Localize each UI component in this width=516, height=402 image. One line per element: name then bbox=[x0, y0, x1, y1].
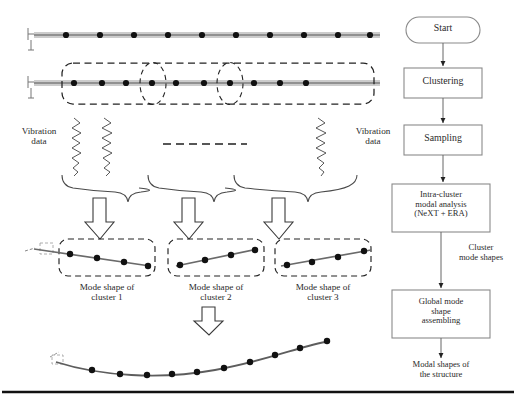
flow-label-sampling[interactable]: Sampling bbox=[404, 133, 482, 144]
block-arrow-down-2 bbox=[174, 198, 203, 239]
mode-shape-cluster-3 bbox=[275, 239, 371, 276]
block-arrow-down-1 bbox=[85, 198, 114, 239]
block-arrow-assemble bbox=[194, 307, 223, 335]
flow-label-intra-cluster[interactable]: Intra-cluster modal analysis (NeXT + ERA… bbox=[392, 190, 490, 219]
support-icon-top bbox=[28, 28, 34, 50]
beam-clustered-group bbox=[28, 63, 380, 105]
vibration-data-label-right: Vibration data bbox=[340, 126, 406, 147]
flow-label-global-assembly[interactable]: Global mode shape assembling bbox=[392, 297, 490, 326]
cluster1-shape-line bbox=[34, 249, 150, 266]
global-dots bbox=[89, 338, 330, 378]
waveform-signal-3 bbox=[316, 118, 326, 176]
flow-label-clustering[interactable]: Clustering bbox=[404, 76, 482, 87]
cluster3-dashed-box bbox=[275, 239, 371, 276]
cluster1-caption: Mode shape of cluster 1 bbox=[52, 282, 162, 303]
anchor-dash-1 bbox=[25, 248, 35, 251]
cluster2-shape-line bbox=[176, 249, 258, 266]
global-mode-shape bbox=[50, 338, 330, 378]
block-arrow-group bbox=[85, 198, 293, 239]
flow-edge-label-cluster-mode-shapes: Cluster mode shapes bbox=[446, 243, 516, 262]
cluster2-caption: Mode shape of cluster 2 bbox=[161, 282, 271, 303]
cluster3-shape-line bbox=[281, 250, 371, 266]
cluster3-caption: Mode shape of cluster 3 bbox=[268, 282, 378, 303]
brace-cluster-3 bbox=[234, 175, 357, 202]
block-arrow-down-3 bbox=[264, 198, 293, 239]
waveform-signal-2 bbox=[102, 118, 112, 176]
mode-shape-cluster-2 bbox=[168, 239, 264, 276]
waveform-group bbox=[72, 118, 326, 176]
flow-label-start[interactable]: Start bbox=[406, 23, 480, 34]
vibration-data-label-left: Vibration data bbox=[6, 126, 72, 147]
waveform-signal-1 bbox=[72, 118, 81, 176]
mode-shape-cluster-1 bbox=[25, 239, 155, 276]
global-shape-curve bbox=[56, 341, 330, 376]
cluster1-dashed-box bbox=[59, 239, 155, 276]
flow-label-result: Modal shapes of the structure bbox=[388, 360, 494, 379]
figure-canvas: Vibration data Vibration data Mode shape… bbox=[0, 0, 516, 402]
support-icon-clustered bbox=[28, 76, 34, 98]
anchor-dash-global bbox=[50, 352, 59, 357]
beam-top-group bbox=[28, 28, 380, 50]
